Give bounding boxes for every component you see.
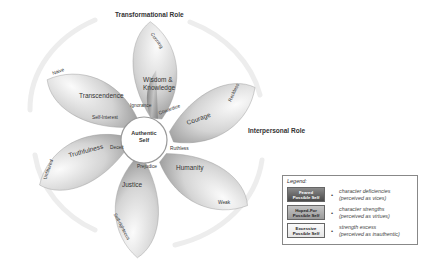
- legend-item-feared: FearedPossible Self • character deficien…: [287, 187, 413, 202]
- center-line1: Authentic: [124, 130, 164, 137]
- excess-swatch-line2: Possible Self: [293, 231, 320, 236]
- virtue-wisdom-line2: Knowledge: [143, 84, 175, 92]
- bullet-icon: •: [331, 210, 333, 216]
- transformational-role-label: Transformational Role: [115, 11, 184, 18]
- virtue-justice: Justice: [122, 181, 142, 188]
- vice-prejudice: Prejudice: [137, 164, 157, 169]
- feared-description: character deficiencies (perceived as vic…: [339, 188, 390, 201]
- vice-deceit: Deceit: [110, 145, 124, 150]
- excess-weak: Weak: [218, 200, 230, 205]
- bullet-icon: •: [331, 228, 333, 234]
- interpersonal-role-label: Interpersonal Role: [248, 127, 305, 134]
- legend: Legend: FearedPossible Self • character …: [282, 175, 418, 245]
- feared-desc-line2: (perceived as vices): [339, 195, 390, 202]
- vice-self-interest: Self-Interest: [92, 115, 118, 120]
- virtue-humanity: Humanity: [176, 164, 203, 171]
- hoped-for-description: character strengths (perceived as virtue…: [339, 206, 390, 219]
- hoped-desc-line2: (perceived as virtues): [339, 213, 390, 220]
- excessive-swatch: ExcessivePossible Self: [287, 223, 325, 238]
- center-line2: Self: [124, 137, 164, 144]
- legend-item-excessive: ExcessivePossible Self • strength excess…: [287, 223, 413, 238]
- hoped-for-swatch: Hoped-ForPossible Self: [287, 205, 325, 220]
- vice-ruthless: Ruthless: [170, 146, 189, 151]
- feared-swatch-line2: Possible Self: [293, 195, 320, 200]
- legend-item-hoped-for: Hoped-ForPossible Self • character stren…: [287, 205, 413, 220]
- virtue-wisdom: Wisdom & Knowledge: [143, 76, 175, 92]
- virtue-transcendence: Transcendence: [79, 92, 124, 99]
- excessive-description: strength excess (perceived as inauthenti…: [339, 224, 400, 237]
- virtue-wisdom-line1: Wisdom &: [143, 76, 175, 84]
- legend-title: Legend:: [287, 178, 413, 184]
- center-label: Authentic Self: [124, 130, 164, 144]
- feared-desc-line1: character deficiencies: [339, 188, 390, 195]
- hoped-swatch-line2: Possible Self: [293, 213, 320, 218]
- feared-swatch: FearedPossible Self: [287, 187, 325, 202]
- hoped-desc-line1: character strengths: [339, 206, 390, 213]
- excess-desc-line2: (perceived as inauthentic): [339, 231, 400, 238]
- vice-ignorance: Ignorance: [130, 103, 151, 108]
- bullet-icon: •: [331, 192, 333, 198]
